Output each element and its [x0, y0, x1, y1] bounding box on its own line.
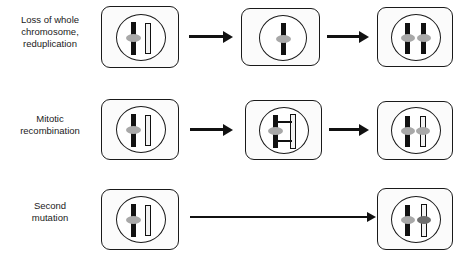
centromere [401, 127, 415, 135]
centromere [126, 34, 141, 42]
cell-row1-stage3 [377, 7, 453, 67]
row-label-second-mutation: Second mutation [4, 200, 96, 224]
row-label-line: Loss of whole [4, 14, 96, 26]
row-label-line: Second [4, 200, 96, 212]
cell-row2-stage2 [245, 100, 322, 160]
chromosome-arm-lower [281, 41, 286, 55]
row-label-line: reduplication [4, 38, 96, 50]
cell-row1-stage1 [101, 6, 179, 68]
crossover-strand-upper [277, 121, 292, 123]
row-label-line: chromosome, [4, 26, 96, 38]
chromosome-arm-lower [420, 133, 426, 147]
crossover-strand-lower [277, 140, 292, 142]
arrow-shaft [189, 35, 225, 38]
cell-row2-stage3 [377, 101, 453, 160]
cell-row1-stage2 [241, 8, 320, 66]
nucleus [116, 14, 166, 61]
arrow-shaft [190, 216, 370, 218]
chromosome-arm-lower [131, 40, 136, 55]
centromere [401, 34, 415, 42]
chromosome-arm-lower [421, 40, 426, 54]
row-label-loss-reduplication: Loss of whole chromosome, reduplication [4, 14, 96, 50]
cell-row2-stage1 [101, 99, 179, 160]
chromosome-arm-lower [131, 132, 136, 147]
arrow-shaft [327, 35, 361, 38]
arrow-head [359, 31, 369, 43]
arrow-shaft [329, 128, 361, 131]
chromosome-arm-lower [131, 222, 136, 237]
nucleus [391, 107, 441, 154]
centromere [126, 126, 141, 134]
centromere [268, 127, 283, 135]
nucleus [391, 196, 441, 243]
chromosome-arm-full [145, 115, 151, 146]
chromosome-arm-full [145, 23, 151, 54]
centromere [276, 35, 291, 43]
chromosome-arm-lower [405, 40, 410, 54]
row-label-line: Mitotic [4, 113, 96, 125]
arrow-head [359, 124, 369, 136]
nucleus [116, 196, 166, 243]
centromere [417, 34, 431, 42]
centromere [126, 216, 141, 224]
row-label-mitotic-recombination: Mitotic recombination [4, 113, 96, 137]
arrow-shaft [190, 128, 225, 131]
chromosome-arm-lower [405, 133, 410, 147]
cell-row3-stage3 [377, 188, 453, 250]
chromosome-arm-full [145, 205, 151, 236]
centromere [417, 216, 431, 224]
loss-of-heterozygosity-diagram: Loss of whole chromosome, reduplication [0, 0, 470, 257]
centromere [401, 216, 415, 224]
chromosome-arm-full [290, 114, 296, 149]
cell-row3-stage1 [101, 189, 179, 250]
arrow-head [367, 212, 376, 222]
nucleus [116, 106, 166, 153]
nucleus [259, 15, 307, 61]
centromere [416, 127, 430, 135]
chromosome-arm-lower [405, 222, 410, 236]
nucleus [391, 14, 441, 61]
row-label-line: recombination [4, 125, 96, 137]
arrow-head [223, 31, 233, 43]
nucleus [259, 107, 309, 154]
arrow-head [223, 124, 233, 136]
row-label-line: mutation [4, 212, 96, 224]
